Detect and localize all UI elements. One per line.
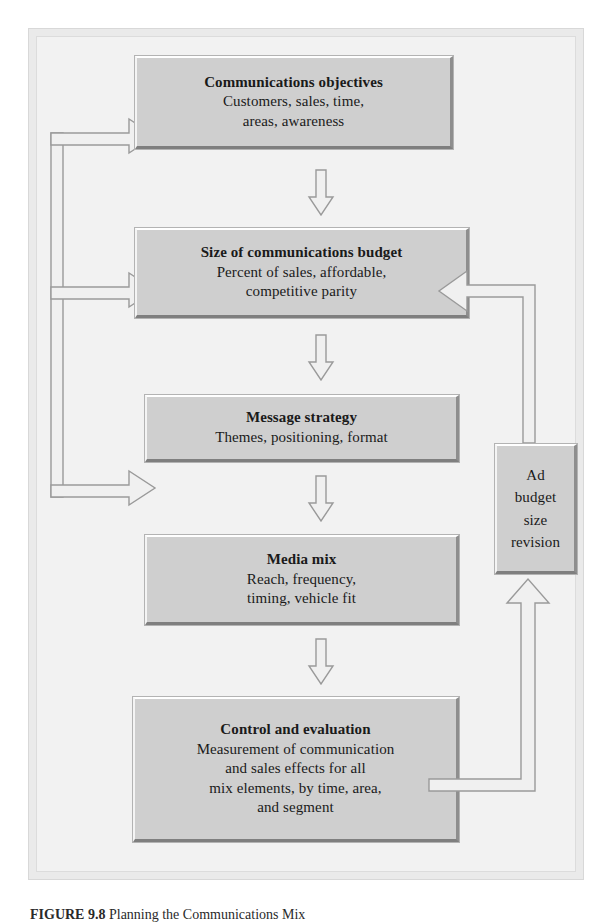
node-subtext: Ad budget size revision bbox=[511, 464, 560, 553]
node-size-of-communications-budget[interactable]: Size of communications budget Percent of… bbox=[135, 228, 469, 318]
arrow-down-message-to-media bbox=[308, 475, 334, 523]
node-subtext-line: Ad bbox=[511, 464, 560, 486]
node-title: Media mix bbox=[267, 550, 337, 570]
node-ad-budget-size-revision[interactable]: Ad budget size revision bbox=[495, 444, 577, 574]
caption-text: Planning the Communications Mix bbox=[109, 907, 305, 922]
node-subtext-line: Themes, positioning, format bbox=[215, 428, 388, 448]
node-subtext-line: revision bbox=[511, 531, 560, 553]
node-subtext-line: areas, awareness bbox=[223, 112, 364, 132]
arrow-right-up-into-adbudget bbox=[429, 579, 549, 791]
node-subtext: Reach, frequency, timing, vehicle fit bbox=[247, 570, 356, 609]
connector-adbudget-to-budget bbox=[431, 247, 561, 447]
node-subtext-line: budget bbox=[511, 486, 560, 508]
node-title: Control and evaluation bbox=[220, 720, 370, 740]
arrow-feedback-to-control bbox=[51, 471, 155, 505]
node-subtext-line: and segment bbox=[197, 798, 395, 818]
connector-control-to-adbudget bbox=[427, 577, 577, 797]
arrow-up-left-into-budget bbox=[439, 271, 535, 443]
figure-caption: FIGURE 9.8 Planning the Communications M… bbox=[30, 906, 570, 922]
node-subtext-line: Measurement of communication bbox=[197, 740, 395, 760]
node-subtext-line: timing, vehicle fit bbox=[247, 589, 356, 609]
arrow-down-media-to-control bbox=[308, 638, 334, 686]
arrow-down-budget-to-message bbox=[308, 334, 334, 382]
node-subtext-line: mix elements, by time, area, bbox=[197, 779, 395, 799]
figure-page: Communications objectives Customers, sal… bbox=[0, 0, 612, 922]
figure-frame: Communications objectives Customers, sal… bbox=[28, 28, 584, 880]
node-title: Size of communications budget bbox=[201, 243, 403, 263]
node-subtext-line: and sales effects for all bbox=[197, 759, 395, 779]
caption-label: FIGURE bbox=[30, 907, 84, 922]
node-subtext: Measurement of communication and sales e… bbox=[197, 740, 395, 818]
node-subtext: Customers, sales, time, areas, awareness bbox=[223, 92, 364, 131]
node-subtext-line: Reach, frequency, bbox=[247, 570, 356, 590]
node-communications-objectives[interactable]: Communications objectives Customers, sal… bbox=[135, 56, 453, 149]
node-subtext-line: size bbox=[511, 509, 560, 531]
node-title: Communications objectives bbox=[204, 73, 383, 93]
feedback-trunk-left bbox=[33, 125, 163, 525]
node-title: Message strategy bbox=[246, 408, 357, 428]
arrow-down-objectives-to-budget bbox=[308, 169, 334, 217]
node-media-mix[interactable]: Media mix Reach, frequency, timing, vehi… bbox=[145, 535, 459, 625]
caption-number: 9.8 bbox=[88, 907, 106, 922]
node-subtext-line: competitive parity bbox=[217, 282, 387, 302]
node-control-and-evaluation[interactable]: Control and evaluation Measurement of co… bbox=[133, 697, 459, 842]
node-message-strategy[interactable]: Message strategy Themes, positioning, fo… bbox=[145, 395, 459, 462]
node-subtext: Percent of sales, affordable, competitiv… bbox=[217, 263, 387, 302]
node-subtext-line: Customers, sales, time, bbox=[223, 92, 364, 112]
node-subtext-line: Percent of sales, affordable, bbox=[217, 263, 387, 283]
node-subtext: Themes, positioning, format bbox=[215, 428, 388, 448]
